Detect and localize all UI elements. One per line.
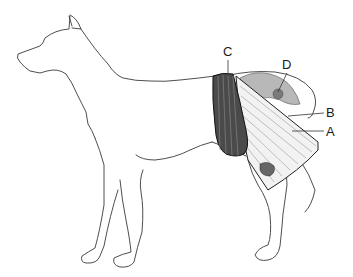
dog-outline-head — [17, 16, 95, 138]
diagram-canvas: C D B A — [0, 0, 353, 277]
label-c: C — [223, 45, 232, 58]
dog-diagram — [0, 0, 353, 277]
dog-outline-back — [81, 29, 225, 81]
dog-outline-front-leg-a — [82, 138, 119, 263]
label-d: D — [282, 58, 291, 71]
dog-outline-hind-back — [300, 160, 315, 212]
dog-outline-front-leg-b — [114, 170, 143, 267]
dog-outline-belly — [136, 142, 212, 160]
label-a: A — [326, 125, 335, 138]
structure-d-nodule — [273, 89, 283, 99]
label-b: B — [326, 106, 335, 119]
leader-b — [288, 113, 324, 116]
dog-outline-ear — [69, 15, 81, 29]
